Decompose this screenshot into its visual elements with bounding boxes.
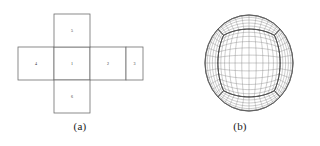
caption-panel-a: (a) bbox=[0, 120, 160, 132]
net-face-label: 1 bbox=[71, 61, 73, 66]
net-cell-face-3: 3 bbox=[126, 47, 143, 80]
net-face-label: 3 bbox=[134, 61, 136, 66]
net-face-label: 6 bbox=[71, 94, 73, 99]
net-face-label: 4 bbox=[35, 61, 37, 66]
net-face-label: 5 bbox=[71, 28, 73, 33]
net-cell-face-2: 2 bbox=[90, 47, 126, 80]
net-cell-face-5: 5 bbox=[54, 14, 90, 47]
panel-sphere-mesh: (b) bbox=[160, 0, 320, 146]
net-cell-face-6: 6 bbox=[54, 80, 90, 113]
cubed-sphere-drawing bbox=[160, 0, 320, 120]
net-cell-face-1: 1 bbox=[54, 47, 90, 80]
panel-cube-net: 412356 (a) bbox=[0, 0, 160, 146]
net-cell-face-4: 4 bbox=[18, 47, 54, 80]
cube-net-drawing: 412356 bbox=[0, 0, 160, 120]
figure-cubed-sphere: 412356 (a) (b) bbox=[0, 0, 320, 146]
caption-panel-b: (b) bbox=[160, 120, 320, 132]
net-face-label: 2 bbox=[107, 61, 109, 66]
